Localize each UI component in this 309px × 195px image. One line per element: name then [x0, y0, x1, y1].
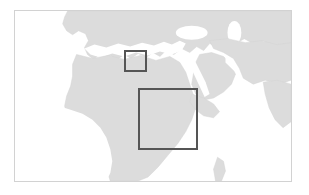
figure-root: [0, 0, 309, 195]
map-frame: [14, 10, 292, 182]
roi-eastern-mediterranean-box[interactable]: [124, 50, 147, 72]
roi-northeast-africa-box[interactable]: [138, 88, 198, 150]
water-black-sea: [176, 26, 208, 40]
